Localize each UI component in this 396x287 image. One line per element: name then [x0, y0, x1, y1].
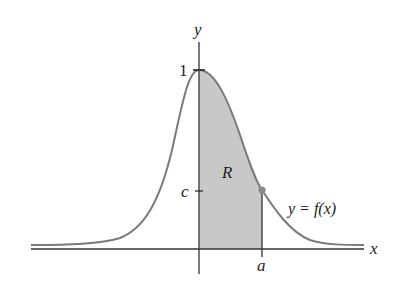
curve-label: y = f(x) [286, 200, 336, 218]
point-a-fa [258, 186, 265, 193]
diagram-canvas: y x 1 c a R y = f(x) [0, 0, 396, 287]
region-label: R [221, 163, 233, 182]
shaded-region-r [199, 70, 262, 249]
y-axis-label: y [192, 20, 202, 39]
x-axis-label: x [369, 239, 378, 258]
peak-label: 1 [179, 61, 188, 80]
a-label: a [257, 256, 266, 275]
c-label: c [181, 182, 189, 201]
curve-f [31, 70, 364, 245]
